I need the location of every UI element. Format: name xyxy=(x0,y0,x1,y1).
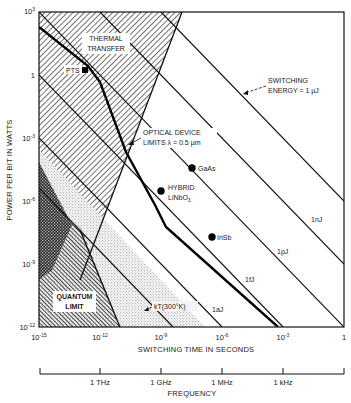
switching-label-2: ENERGY = 1 µJ xyxy=(268,87,319,95)
svg-text:10-12: 10-12 xyxy=(19,322,35,332)
gaas-label: GaAs xyxy=(198,165,216,172)
svg-text:10-9: 10-9 xyxy=(155,332,168,342)
svg-text:10-6: 10-6 xyxy=(216,332,229,342)
insb-label: InSb xyxy=(217,234,232,241)
freq-tick-thz: 1 THz xyxy=(90,378,110,387)
svg-text:10-15: 10-15 xyxy=(31,332,47,342)
thermal-label-2: TRANSFER xyxy=(87,45,125,52)
1aJ-label: 1aJ xyxy=(212,306,223,313)
svg-text:10-9: 10-9 xyxy=(22,259,35,269)
frequency-axis xyxy=(40,368,344,374)
svg-text:10-3: 10-3 xyxy=(22,133,35,143)
kt-label: kT(300°K) xyxy=(154,303,186,311)
1nJ-label: 1nJ xyxy=(311,216,322,223)
switching-label-1: SWITCHING xyxy=(268,77,308,84)
svg-text:1: 1 xyxy=(31,71,35,80)
line-1nJ xyxy=(100,12,344,264)
freq-tick-ghz: 1 GHz xyxy=(150,378,172,387)
pts-point xyxy=(82,67,88,73)
power-vs-switching-time-chart: THERMAL TRANSFER PTS SWITCHING ENERGY = … xyxy=(0,0,351,403)
hybrid-label-1: HYBRID xyxy=(168,184,194,191)
svg-text:10-12: 10-12 xyxy=(92,332,108,342)
insb-point xyxy=(208,233,215,240)
optical-label-1: OPTICAL DEVICE xyxy=(143,129,201,136)
svg-text:10-3: 10-3 xyxy=(277,332,290,342)
y-axis-label: POWER PER BIT IN WATTS xyxy=(5,120,14,221)
svg-text:10-6: 10-6 xyxy=(22,196,35,206)
freq-tick-khz: 1 kHz xyxy=(273,378,292,387)
pts-label: PTS xyxy=(66,67,80,74)
line-1uJ xyxy=(161,12,344,201)
frequency-label: FREQUENCY xyxy=(168,389,217,398)
x-axis-label: SWITCHING TIME IN SECONDS xyxy=(138,345,255,354)
quantum-label-1: QUANTUM xyxy=(57,293,93,301)
thermal-label-1: THERMAL xyxy=(89,35,123,42)
optical-label-2: LIMITS λ = 0.5 µm xyxy=(143,139,201,147)
svg-text:103: 103 xyxy=(24,6,35,16)
x-axis-ticks: 10-15 10-12 10-9 10-6 10-3 1 xyxy=(31,332,346,342)
freq-tick-mhz: 1 MHz xyxy=(211,378,233,387)
1pJ-label: 1pJ xyxy=(277,248,288,256)
1fJ-label: 1fJ xyxy=(245,276,254,283)
gaas-point xyxy=(188,164,195,171)
quantum-label-2: LIMIT xyxy=(65,303,84,310)
svg-text:1: 1 xyxy=(342,333,346,342)
y-axis-ticks: 103 1 10-3 10-6 10-9 10-12 xyxy=(19,6,35,332)
hybrid-linbo3-point xyxy=(157,187,164,194)
